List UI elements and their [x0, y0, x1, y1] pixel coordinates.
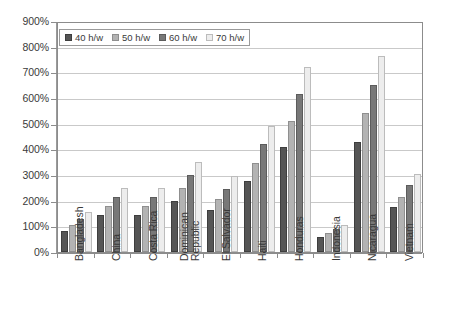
- y-axis-tick-label: 800%: [1, 42, 49, 53]
- bar: [252, 163, 259, 252]
- x-axis-category-label: El Salvador: [221, 208, 232, 261]
- bar: [317, 237, 324, 252]
- y-axis-tick-mark: [51, 73, 57, 74]
- y-axis-tick-mark: [51, 150, 57, 151]
- x-axis-tick-mark: [57, 253, 58, 258]
- y-axis-tick-label: 700%: [1, 67, 49, 78]
- x-axis-category-label: Honduras: [294, 216, 305, 261]
- y-axis-tick-mark: [51, 202, 57, 203]
- bar: [260, 144, 267, 252]
- x-axis-category-label: Vietnam: [404, 223, 415, 261]
- legend-label: 40 h/w: [75, 33, 103, 43]
- bar: [158, 188, 165, 252]
- x-axis-tick-mark: [94, 253, 95, 258]
- legend-swatch-icon: [112, 34, 119, 41]
- bar: [97, 215, 104, 252]
- y-axis-tick-mark: [51, 48, 57, 49]
- y-axis-tick-mark: [51, 99, 57, 100]
- y-axis-labels: 0%100%200%300%400%500%600%700%800%900%: [0, 0, 49, 333]
- bar-chart: 0%100%200%300%400%500%600%700%800%900% B…: [0, 0, 460, 333]
- bar-group: [387, 23, 424, 252]
- x-axis-category-label: Nicaragua: [367, 214, 378, 261]
- x-axis-category-label: Bangladesh: [74, 207, 85, 261]
- legend-item: 60 h/w: [159, 33, 197, 43]
- x-axis-tick-mark: [350, 253, 351, 258]
- bar: [280, 147, 287, 252]
- bar: [414, 174, 421, 252]
- chart-legend: 40 h/w50 h/w60 h/w70 h/w: [59, 29, 250, 46]
- y-axis-tick-label: 900%: [1, 16, 49, 27]
- bar: [231, 176, 238, 252]
- legend-label: 70 h/w: [216, 33, 244, 43]
- y-axis-tick-mark: [51, 22, 57, 23]
- y-axis-tick-label: 400%: [1, 144, 49, 155]
- bar: [121, 188, 128, 252]
- legend-item: 70 h/w: [206, 33, 244, 43]
- y-axis-tick-label: 600%: [1, 93, 49, 104]
- y-axis-tick-mark: [51, 227, 57, 228]
- y-axis-tick-label: 100%: [1, 221, 49, 232]
- x-axis-category-label: Costa Rica: [148, 211, 159, 261]
- x-axis-category-label: Haiti: [257, 240, 268, 261]
- y-axis-tick-mark: [51, 125, 57, 126]
- x-axis-tick-mark: [386, 253, 387, 258]
- x-axis-tick-mark: [423, 253, 424, 258]
- x-axis-tick-mark: [130, 253, 131, 258]
- bar: [268, 126, 275, 252]
- bar: [341, 225, 348, 252]
- x-axis-category-label: China: [111, 234, 122, 261]
- legend-label: 50 h/w: [122, 33, 150, 43]
- x-axis-category-label: Dominican Republic: [179, 212, 201, 261]
- x-axis-tick-mark: [240, 253, 241, 258]
- y-axis-tick-mark: [51, 176, 57, 177]
- bar-group: [95, 23, 132, 252]
- bar: [134, 215, 141, 252]
- bar: [304, 67, 311, 252]
- x-axis-category-label: Indonesia: [331, 216, 342, 261]
- bar: [61, 231, 68, 252]
- legend-swatch-icon: [206, 34, 213, 41]
- y-axis-tick-mark: [51, 253, 57, 254]
- bar: [207, 210, 214, 252]
- bar: [378, 56, 385, 252]
- y-axis-tick-label: 200%: [1, 196, 49, 207]
- y-axis-tick-label: 300%: [1, 170, 49, 181]
- bar: [354, 142, 361, 252]
- bar: [390, 207, 397, 252]
- y-axis-tick-label: 0%: [1, 247, 49, 258]
- x-axis-tick-mark: [277, 253, 278, 258]
- x-axis-tick-mark: [203, 253, 204, 258]
- legend-swatch-icon: [159, 34, 166, 41]
- x-axis-tick-mark: [167, 253, 168, 258]
- bar-group: [241, 23, 278, 252]
- bar: [85, 212, 92, 252]
- legend-item: 50 h/w: [112, 33, 150, 43]
- legend-item: 40 h/w: [65, 33, 103, 43]
- x-axis-tick-mark: [313, 253, 314, 258]
- legend-label: 60 h/w: [169, 33, 197, 43]
- y-axis-tick-label: 500%: [1, 119, 49, 130]
- bar: [171, 201, 178, 252]
- legend-swatch-icon: [65, 34, 72, 41]
- bar: [244, 181, 251, 252]
